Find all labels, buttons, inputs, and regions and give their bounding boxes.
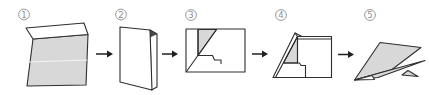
tail-fin [402,71,418,77]
step-5-finished-airplane [355,43,426,81]
unfolded-rectangle [186,29,245,72]
folded-body-outline [273,33,332,78]
arrow-head [348,51,354,58]
arrow-icon [162,51,178,58]
arrow-icon [252,51,268,58]
arrow-head [172,51,178,58]
folding-instructions-diagram: 1 2 3 4 5 [0,0,429,95]
front-panel [120,27,152,90]
step-5-number: 5 [367,10,372,20]
arrow-icon [96,51,113,58]
step-1-number: 1 [21,10,26,20]
step-label-1: 1 [19,9,30,20]
step-label-3: 3 [186,10,197,21]
step-2-folded-sheet [120,27,157,90]
step-3-number: 3 [188,10,193,20]
step-3-corner-fold [186,29,245,72]
step-1-flat-sheet [26,23,88,86]
arrow-icon [338,51,354,58]
step-label-5: 5 [365,10,376,21]
step-4-wing-fold [273,33,332,78]
arrow-head [107,51,113,58]
step-4-number: 4 [278,10,283,20]
diagram-canvas: 1 2 3 4 5 [0,0,429,95]
step-label-4: 4 [276,10,287,21]
step-2-number: 2 [118,10,123,20]
arrow-head [262,51,268,58]
step-label-2: 2 [116,9,127,20]
